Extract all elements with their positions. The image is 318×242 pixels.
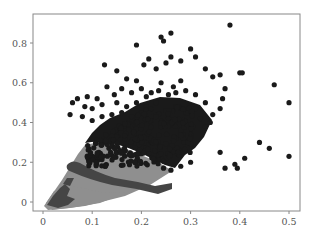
data-point: [178, 78, 183, 83]
data-point: [94, 160, 99, 165]
data-point: [220, 96, 225, 101]
data-point: [222, 86, 227, 91]
y-tick-label: 0: [21, 197, 27, 208]
data-point: [188, 150, 193, 155]
data-point: [86, 163, 91, 168]
data-point: [164, 132, 169, 137]
data-point: [67, 112, 72, 117]
data-point: [129, 90, 134, 95]
data-point: [161, 121, 166, 126]
data-point: [240, 70, 245, 75]
x-tick-label: 0.3: [183, 216, 198, 227]
data-point: [90, 106, 95, 111]
data-point: [227, 23, 232, 28]
data-point: [119, 86, 124, 91]
data-point: [99, 154, 104, 159]
x-axis: 00.10.20.30.40.5: [40, 211, 297, 227]
data-point: [187, 136, 192, 141]
data-point: [134, 78, 139, 83]
data-point: [161, 166, 166, 171]
data-point: [181, 107, 186, 112]
data-point: [141, 62, 146, 67]
data-point: [109, 112, 114, 117]
data-point: [122, 133, 127, 138]
data-point: [120, 162, 125, 167]
data-point: [90, 118, 95, 123]
data-point: [147, 129, 152, 134]
data-point: [99, 114, 104, 119]
data-point: [135, 119, 140, 124]
x-tick-label: 0: [40, 216, 46, 227]
data-point: [167, 146, 172, 151]
data-point: [126, 127, 131, 132]
data-point: [85, 94, 90, 99]
y-tick-label: 0.8: [12, 38, 27, 49]
data-point: [139, 140, 144, 145]
data-point: [163, 141, 168, 146]
data-point: [103, 138, 108, 143]
data-point: [156, 88, 161, 93]
data-point: [124, 104, 129, 109]
data-point: [88, 151, 93, 156]
data-point: [135, 113, 140, 118]
data-point: [154, 66, 159, 71]
data-point: [210, 74, 215, 79]
data-point: [154, 100, 159, 105]
data-point: [257, 140, 262, 145]
data-point: [203, 100, 208, 105]
data-point: [82, 104, 87, 109]
data-point: [203, 66, 208, 71]
data-point: [91, 145, 96, 150]
data-point: [189, 109, 194, 114]
data-point: [134, 163, 139, 168]
data-point: [122, 121, 127, 126]
data-point: [158, 151, 163, 156]
data-point: [178, 58, 183, 63]
data-point: [163, 60, 168, 65]
data-point: [168, 30, 173, 35]
data-point: [166, 92, 171, 97]
data-point: [70, 100, 75, 105]
data-point: [109, 157, 114, 162]
data-point: [193, 54, 198, 59]
data-point: [173, 124, 178, 129]
data-point: [104, 84, 109, 89]
data-point: [168, 168, 173, 173]
y-tick-label: 0.4: [12, 117, 27, 128]
data-point: [188, 160, 193, 165]
data-point: [235, 166, 240, 171]
data-point: [111, 129, 116, 134]
data-point: [153, 139, 158, 144]
data-point: [93, 141, 98, 146]
data-point: [208, 120, 213, 125]
data-point: [183, 88, 188, 93]
data-point: [126, 159, 131, 164]
data-point: [198, 116, 203, 121]
data-point: [141, 151, 146, 156]
data-point: [128, 140, 133, 145]
y-tick-label: 0.2: [12, 157, 27, 168]
data-point: [286, 154, 291, 159]
data-point: [143, 161, 148, 166]
data-point: [178, 164, 183, 169]
data-point: [218, 106, 223, 111]
data-point: [103, 132, 108, 137]
data-point: [242, 156, 247, 161]
x-tick-label: 0.1: [85, 216, 100, 227]
plot-area: [44, 23, 292, 210]
data-point: [158, 80, 163, 85]
data-point: [99, 102, 104, 107]
data-point: [193, 92, 198, 97]
data-point: [118, 126, 123, 131]
data-point: [171, 138, 176, 143]
data-point: [135, 151, 140, 156]
data-point: [153, 114, 158, 119]
data-point: [161, 38, 166, 43]
data-point: [166, 116, 171, 121]
data-point: [182, 147, 187, 152]
data-point: [114, 100, 119, 105]
data-point: [99, 143, 104, 148]
data-point: [188, 46, 193, 51]
data-point: [156, 161, 161, 166]
x-tick-label: 0.4: [232, 216, 247, 227]
